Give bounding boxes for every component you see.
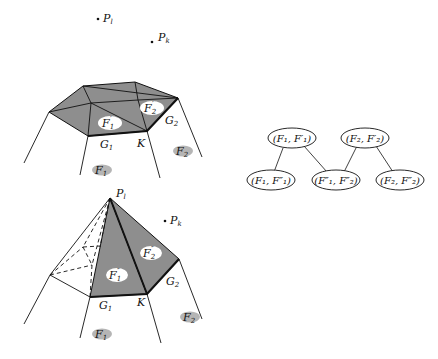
edge-g2-label-bottom: G2 [166, 275, 180, 289]
apex-pl-label: Pl [115, 187, 126, 201]
graph-node-n4: (F″₁, F″₂) [312, 170, 360, 190]
graph-node-n2: (F₂, F′₂) [341, 128, 389, 148]
point-pl-label: Pl [102, 12, 113, 26]
svg-text:(F₂, F″₂): (F₂, F″₂) [380, 175, 420, 186]
svg-text:(F″₁, F″₂): (F″₁, F″₂) [314, 175, 358, 186]
edge-g2-label: G2 [165, 114, 179, 128]
top-panel: Pl Pk F1′ F2′ F [24, 12, 202, 178]
vertex-k-label: K [136, 137, 146, 150]
point-pk-label: Pk [157, 31, 170, 45]
graph-node-n3: (F₁, F″₁) [247, 170, 295, 190]
point-pk-dot [151, 41, 154, 44]
face-f2dprime-label: F2″ [142, 245, 156, 261]
bottom-panel: Pl Pk F1″ F2″ F1 F2 G1 G2 K [24, 187, 202, 343]
adjacency-graph: (F₁, F′₁) (F₂, F′₂) (F₁, F″₁) (F″₁, F″₂)… [247, 128, 424, 190]
svg-text:(F₂, F′₂): (F₂, F′₂) [346, 133, 384, 144]
svg-text:(F₁, F′₁): (F₁, F′₁) [273, 133, 311, 144]
point-pk-label-bottom: Pk [169, 214, 182, 228]
graph-edges [274, 146, 393, 172]
face-f1dprime-label: F1″ [108, 267, 121, 283]
point-pk-dot-bottom [164, 220, 167, 223]
vertex-k-label-bottom: K [136, 296, 146, 309]
graph-node-n1: (F₁, F′₁) [268, 128, 316, 148]
edge-g1-label-bottom: G1 [99, 299, 112, 313]
diagram-canvas: Pl Pk F1′ F2′ F [0, 0, 438, 359]
graph-node-n5: (F₂, F″₂) [376, 170, 424, 190]
svg-text:(F₁, F″₁): (F₁, F″₁) [251, 175, 291, 186]
edge-g1-label: G1 [100, 138, 113, 152]
base-left-edge [50, 275, 90, 297]
point-pl-dot [97, 18, 100, 21]
